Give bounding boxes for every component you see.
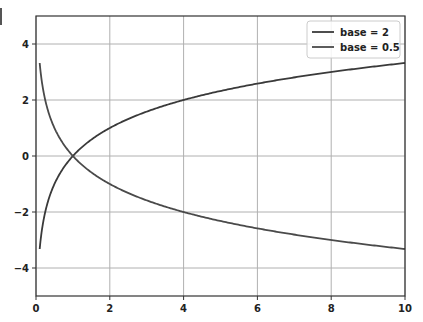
y-tick-label: 2 [22,95,29,106]
x-tick-label: 6 [254,303,261,314]
x-tick-label: 8 [328,303,335,314]
x-tick-label: 10 [398,303,412,314]
legend-label: base = 2 [340,27,389,38]
x-tick-label: 2 [106,303,113,314]
x-tick-label: 4 [180,303,187,314]
legend-label: base = 0.5 [340,42,400,53]
y-tick-label: 4 [22,39,29,50]
legend: base = 2base = 0.5 [307,21,400,58]
axis-ticks: 0246810−4−2024 [14,39,412,314]
line-chart: 0246810−4−2024 base = 2base = 0.5 [0,0,423,322]
y-tick-label: −2 [14,207,29,218]
x-tick-label: 0 [33,303,40,314]
y-tick-label: −4 [14,263,29,274]
y-tick-label: 0 [22,151,29,162]
